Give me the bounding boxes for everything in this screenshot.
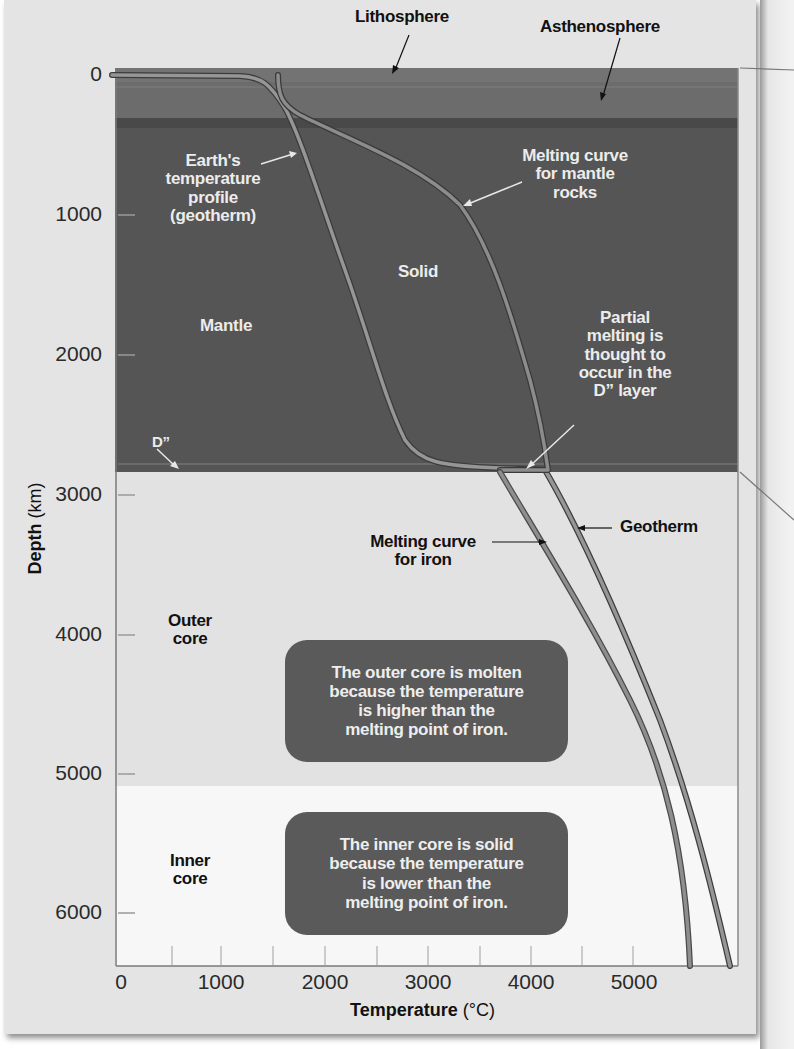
x-tick-5000: 5000 xyxy=(594,970,674,994)
geotherm-label: Geotherm xyxy=(620,518,698,536)
x-axis-title: Temperature (°C) xyxy=(350,1000,495,1021)
asthenosphere-label: Asthenosphere xyxy=(540,18,660,36)
partial-melting-label: Partial melting is thought to occur in t… xyxy=(560,309,690,401)
y-tick-2000: 2000 xyxy=(12,342,102,366)
x-tick-2000: 2000 xyxy=(285,970,365,994)
outer-core-label: Outer core xyxy=(150,612,230,649)
x-tick-3000: 3000 xyxy=(388,970,468,994)
y-axis-title: Depth (km) xyxy=(25,474,46,584)
d-double-prime-label: D” xyxy=(152,434,170,450)
iron-melting-curve-label: Melting curve for iron xyxy=(348,533,498,570)
lithosphere-label: Lithosphere xyxy=(355,8,449,26)
mantle-melting-curve-label: Melting curve for mantle rocks xyxy=(510,147,640,202)
x-tick-1000: 1000 xyxy=(181,970,261,994)
outer-core-callout: The outer core is molten because the tem… xyxy=(285,640,568,762)
y-tick-0: 0 xyxy=(12,62,102,86)
y-tick-5000: 5000 xyxy=(12,761,102,785)
inner-core-label: Inner core xyxy=(150,852,230,889)
y-tick-1000: 1000 xyxy=(12,202,102,226)
y-tick-4000: 4000 xyxy=(12,622,102,646)
solid-label: Solid xyxy=(398,263,438,281)
x-tick-0: 0 xyxy=(81,970,161,994)
inner-core-callout: The inner core is solid because the temp… xyxy=(285,812,568,935)
y-tick-6000: 6000 xyxy=(12,900,102,924)
mantle-label: Mantle xyxy=(200,317,252,335)
geotherm-profile-label: Earth's temperature profile (geotherm) xyxy=(158,152,268,225)
x-tick-4000: 4000 xyxy=(491,970,571,994)
